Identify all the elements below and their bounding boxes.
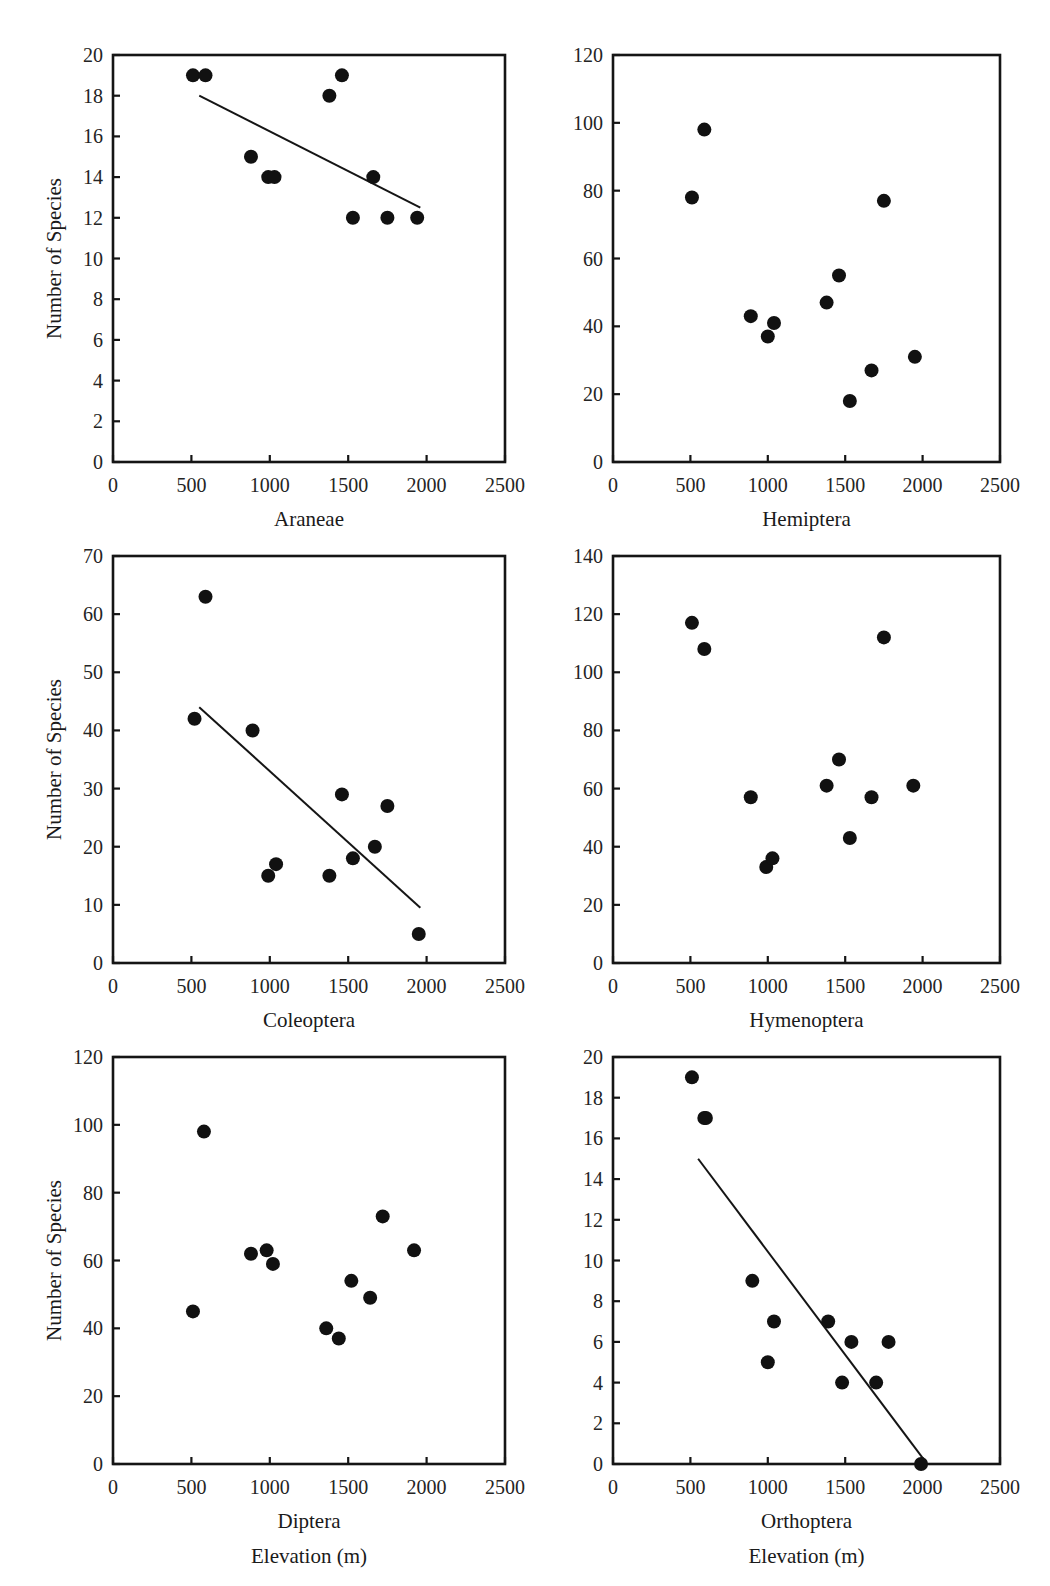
data-point [410, 211, 424, 225]
y-tick-label: 30 [83, 778, 103, 800]
data-point [199, 68, 213, 82]
x-tick-label: 1000 [250, 474, 290, 496]
x-axis-title-orthoptera: Orthoptera [761, 1509, 853, 1533]
y-tick-label: 60 [83, 603, 103, 625]
data-point [319, 1321, 333, 1335]
plot-frame [113, 556, 505, 963]
y-tick-label: 4 [593, 1372, 603, 1394]
data-point [335, 68, 349, 82]
x-tick-label: 1500 [825, 474, 865, 496]
data-point [697, 123, 711, 137]
panel-orthoptera: 0246810121416182005001000150020002500Ort… [533, 1039, 1036, 1574]
y-tick-label: 6 [593, 1331, 603, 1353]
panel-araneae: 0246810121416182005001000150020002500Ara… [33, 37, 541, 572]
x-tick-label: 500 [675, 975, 705, 997]
y-tick-label: 60 [583, 248, 603, 270]
x-tick-label: 1000 [748, 1476, 788, 1498]
data-point [835, 1376, 849, 1390]
x-tick-label: 0 [608, 1476, 618, 1498]
data-point [906, 779, 920, 793]
y-tick-label: 0 [93, 1453, 103, 1475]
y-tick-label: 20 [83, 1385, 103, 1407]
y-tick-label: 14 [83, 166, 103, 188]
y-tick-label: 18 [583, 1087, 603, 1109]
y-tick-label: 10 [83, 894, 103, 916]
data-point [332, 1332, 346, 1346]
x-tick-label: 0 [108, 474, 118, 496]
y-tick-label: 80 [83, 1182, 103, 1204]
data-point [261, 869, 275, 883]
x-axis-title-hemiptera: Hemiptera [762, 507, 851, 531]
y-tick-label: 2 [93, 410, 103, 432]
shared-x-axis-label: Elevation (m) [251, 1544, 367, 1568]
data-point [335, 787, 349, 801]
x-tick-label: 0 [608, 975, 618, 997]
data-point [914, 1457, 928, 1471]
y-tick-label: 0 [93, 952, 103, 974]
y-axis-title-diptera: Number of Species [42, 1180, 66, 1341]
y-tick-label: 120 [573, 603, 603, 625]
data-point [877, 630, 891, 644]
data-point [376, 1209, 390, 1223]
x-tick-label: 1500 [328, 1476, 368, 1498]
data-point [843, 831, 857, 845]
x-tick-label: 2500 [980, 1476, 1020, 1498]
data-point [363, 1291, 377, 1305]
data-point [697, 642, 711, 656]
x-axis-title-diptera: Diptera [278, 1509, 342, 1533]
data-point [699, 1111, 713, 1125]
data-point [744, 309, 758, 323]
x-tick-label: 2500 [485, 975, 525, 997]
data-point [685, 190, 699, 204]
y-tick-label: 14 [583, 1168, 603, 1190]
data-point [820, 779, 834, 793]
panel-hemiptera: 02040608010012005001000150020002500Hemip… [533, 37, 1036, 572]
data-point [322, 89, 336, 103]
x-axis-title-hymenoptera: Hymenoptera [749, 1008, 864, 1032]
data-point [865, 363, 879, 377]
x-axis-title-araneae: Araneae [274, 507, 344, 531]
x-tick-label: 0 [108, 1476, 118, 1498]
y-tick-label: 50 [83, 661, 103, 683]
data-point [188, 712, 202, 726]
x-tick-label: 1000 [250, 975, 290, 997]
y-axis-title-coleoptera: Number of Species [42, 679, 66, 840]
data-point [685, 1070, 699, 1084]
x-tick-label: 500 [176, 474, 206, 496]
y-tick-label: 40 [83, 719, 103, 741]
x-tick-label: 2500 [485, 1476, 525, 1498]
data-point [197, 1125, 211, 1139]
data-point [882, 1335, 896, 1349]
panel-hymenoptera: 02040608010012014005001000150020002500Hy… [533, 538, 1036, 1073]
y-tick-label: 16 [583, 1127, 603, 1149]
data-point [268, 170, 282, 184]
x-tick-label: 1500 [328, 474, 368, 496]
y-tick-label: 18 [83, 85, 103, 107]
data-point [246, 723, 260, 737]
data-point [186, 1304, 200, 1318]
y-tick-label: 10 [583, 1250, 603, 1272]
y-tick-label: 120 [73, 1046, 103, 1068]
figure-root: 0246810121416182005001000150020002500Ara… [0, 0, 1050, 1586]
y-axis-title-araneae: Number of Species [42, 178, 66, 339]
x-tick-label: 2000 [407, 975, 447, 997]
y-tick-label: 12 [583, 1209, 603, 1231]
data-point [244, 150, 258, 164]
y-tick-label: 0 [593, 451, 603, 473]
y-tick-label: 20 [583, 383, 603, 405]
data-point [821, 1315, 835, 1329]
data-point [344, 1274, 358, 1288]
y-tick-label: 40 [83, 1317, 103, 1339]
y-tick-label: 60 [83, 1250, 103, 1272]
x-tick-label: 2000 [407, 1476, 447, 1498]
trend-line-araneae [199, 96, 420, 208]
y-tick-label: 100 [573, 112, 603, 134]
x-tick-label: 2500 [485, 474, 525, 496]
data-point [366, 170, 380, 184]
data-point [346, 211, 360, 225]
plot-frame [613, 55, 1000, 462]
data-point [322, 869, 336, 883]
x-tick-label: 2000 [903, 975, 943, 997]
data-point [269, 857, 283, 871]
x-tick-label: 1000 [748, 474, 788, 496]
